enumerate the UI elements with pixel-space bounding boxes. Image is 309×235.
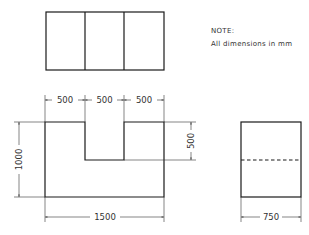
dimension-top-chain: 500 500 500 [45,95,164,122]
dim-top-1: 500 [57,95,73,105]
dim-top-3: 500 [136,95,152,105]
dim-width: 1500 [94,212,116,222]
dim-top-2: 500 [96,95,112,105]
dim-notch-depth: 500 [186,133,196,149]
dim-height: 1000 [14,149,24,171]
front-view [45,122,164,197]
dimension-notch-depth: 500 [124,122,196,160]
drawing-canvas: NOTE: All dimensions in mm 500 500 500 1… [0,0,309,235]
top-view-outline [46,12,164,70]
top-view [46,12,164,70]
dimension-width: 1500 [45,197,164,222]
side-view [241,122,301,197]
dimension-height: 1000 [14,122,45,197]
note-title: NOTE: [211,27,234,35]
front-view-outline [45,122,164,197]
dim-side-width: 750 [263,212,279,222]
dimension-side-width: 750 [241,197,301,222]
note-block: NOTE: All dimensions in mm [211,27,292,48]
note-text: All dimensions in mm [211,40,292,48]
